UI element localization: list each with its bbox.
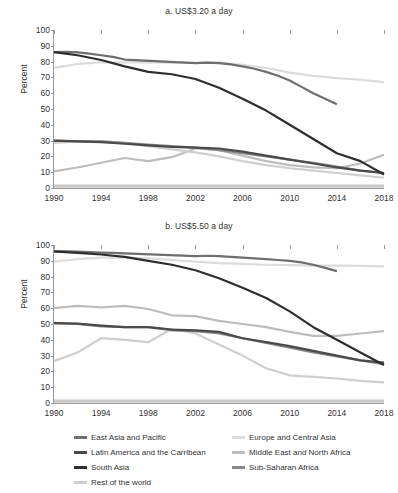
series-canvas: [54, 30, 384, 188]
x-tick-label: 2014: [327, 193, 346, 203]
series-line: [54, 258, 384, 267]
legend-swatch-icon: [74, 436, 87, 439]
panel-a-ylabel: Percent: [19, 49, 29, 109]
chart-panel-a: a. US$3.20 a day Percent 010203040506070…: [0, 0, 398, 215]
y-tick-label: 60: [41, 88, 50, 98]
legend-swatch-icon: [232, 466, 245, 469]
x-tick-label: 2006: [233, 193, 252, 203]
y-tick-label: 40: [41, 335, 50, 345]
panel-b-title: b. US$5.50 a day: [0, 221, 398, 231]
panel-b-plot-area: 0102030405060708090100199019941998200220…: [53, 245, 384, 404]
legend-item[interactable]: Sub-Saharan Africa: [232, 460, 350, 475]
y-tick-label: 70: [41, 287, 50, 297]
legend-item[interactable]: Rest of the world: [74, 475, 206, 490]
x-tick-label: 2014: [327, 408, 346, 418]
x-tick-label: 2010: [280, 408, 299, 418]
legend-swatch-icon: [232, 436, 245, 439]
legend-item[interactable]: Middle East and North Africa: [232, 445, 350, 460]
legend-item[interactable]: Europe and Central Asia: [232, 430, 350, 445]
legend-column-right: Europe and Central AsiaMiddle East and N…: [232, 430, 350, 475]
y-tick-label: 10: [41, 382, 50, 392]
legend-swatch-icon: [232, 451, 245, 454]
y-tick-label: 70: [41, 72, 50, 82]
y-tick-label: 90: [41, 256, 50, 266]
x-tick-label: 1998: [139, 408, 158, 418]
legend-item-label: Rest of the world: [91, 479, 151, 487]
chart-panel-b: b. US$5.50 a day Percent 010203040506070…: [0, 215, 398, 427]
y-tick-label: 20: [41, 151, 50, 161]
x-tick-label: 2002: [186, 408, 205, 418]
legend-item-label: Europe and Central Asia: [249, 434, 336, 442]
y-tick-label: 20: [41, 366, 50, 376]
legend-swatch-icon: [74, 466, 87, 469]
x-tick-label: 2002: [186, 193, 205, 203]
x-tick-label: 1994: [92, 193, 111, 203]
x-tick-label: 2006: [233, 408, 252, 418]
legend-swatch-icon: [74, 481, 87, 484]
y-tick-label: 80: [41, 272, 50, 282]
y-tick-label: 40: [41, 120, 50, 130]
legend-item-label: Sub-Saharan Africa: [249, 464, 318, 472]
legend-item-label: South Asia: [91, 464, 129, 472]
panel-a-plot-area: 0102030405060708090100199019941998200220…: [53, 30, 384, 189]
legend-swatch-icon: [74, 451, 87, 454]
y-tick-label: 30: [41, 136, 50, 146]
series-line: [54, 62, 384, 82]
legend-item-label: Middle East and North Africa: [249, 449, 350, 457]
y-tick-label: 80: [41, 57, 50, 67]
x-tick-label: 1990: [45, 193, 64, 203]
y-tick-label: 0: [45, 398, 50, 408]
y-tick-mark: [51, 188, 55, 189]
legend-column-left: East Asia and PacificLatin America and t…: [74, 430, 206, 490]
legend: East Asia and PacificLatin America and t…: [0, 430, 398, 493]
x-tick-label: 1998: [139, 193, 158, 203]
x-tick-label: 2010: [280, 193, 299, 203]
x-tick-label: 1994: [92, 408, 111, 418]
figure-root: a. US$3.20 a day Percent 010203040506070…: [0, 0, 398, 493]
series-canvas: [54, 245, 384, 403]
series-line: [54, 141, 384, 177]
y-tick-label: 100: [36, 25, 50, 35]
x-tick-mark: [384, 245, 385, 249]
legend-item-label: East Asia and Pacific: [91, 434, 166, 442]
legend-item[interactable]: East Asia and Pacific: [74, 430, 206, 445]
x-tick-label: 1990: [45, 408, 64, 418]
panel-b-ylabel: Percent: [19, 264, 29, 324]
x-tick-label: 2018: [375, 193, 394, 203]
y-tick-label: 60: [41, 303, 50, 313]
y-tick-label: 90: [41, 41, 50, 51]
x-tick-mark: [384, 30, 385, 34]
x-tick-label: 2018: [375, 408, 394, 418]
y-tick-label: 50: [41, 319, 50, 329]
y-tick-label: 50: [41, 104, 50, 114]
legend-item-label: Latin America and the Carribean: [91, 449, 206, 457]
y-tick-label: 10: [41, 167, 50, 177]
panel-a-title: a. US$3.20 a day: [0, 6, 398, 16]
y-tick-label: 30: [41, 351, 50, 361]
legend-item[interactable]: Latin America and the Carribean: [74, 445, 206, 460]
y-tick-mark: [51, 403, 55, 404]
legend-item[interactable]: South Asia: [74, 460, 206, 475]
y-tick-label: 100: [36, 240, 50, 250]
y-tick-label: 0: [45, 183, 50, 193]
